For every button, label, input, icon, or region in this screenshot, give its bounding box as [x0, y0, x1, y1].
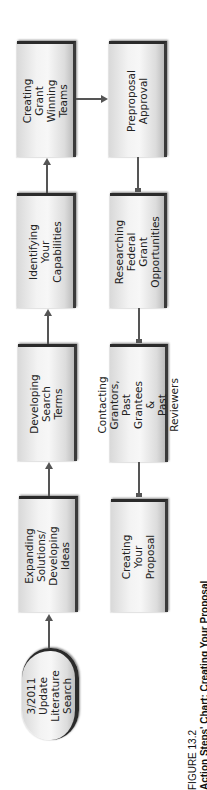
node-preproposal-approval: Preproposal Approval — [109, 41, 167, 157]
node-creating-your-proposal: Creating Your Proposal — [111, 499, 168, 612]
node-label: 3/2011 Update Literature Search — [25, 670, 73, 721]
node-label: Creating Your Proposal — [120, 535, 156, 580]
node-label: Preproposal Approval — [125, 70, 149, 132]
node-label: Expanding Solutions/ Developing Ideas — [23, 526, 71, 585]
node-label: Contacting Grantors, Past Grantees & Pas… — [96, 376, 180, 433]
figure-number: FIGURE 13.2 — [187, 581, 199, 790]
node-researching-federal-grant: Researching Federal Grant Opportunities — [110, 193, 167, 308]
node-label: Identifying Your Capabilities — [27, 221, 63, 282]
node-identifying-your-capabilities: Identifying Your Capabilities — [17, 193, 76, 308]
node-literature-search-start: 3/2011 Update Literature Search — [22, 648, 79, 740]
node-developing-search-terms: Developing Search Terms — [18, 344, 77, 461]
node-expanding-solutions: Expanding Solutions/ Developing Ideas — [19, 496, 78, 612]
node-label: Developing Search Terms — [28, 374, 64, 433]
node-contacting-grantors: Contacting Grantors, Past Grantees & Pas… — [110, 344, 168, 462]
figure-title: Action Steps' Chart: Creating Your Propo… — [199, 581, 207, 790]
node-creating-grant-winning-teams: Creating Grant Winning Teams — [17, 41, 76, 157]
node-label: Researching Federal Grant Opportunities — [113, 216, 161, 288]
node-label: Creating Grant Winning Teams — [21, 78, 69, 123]
figure-caption: FIGURE 13.2 Action Steps' Chart: Creatin… — [187, 581, 207, 790]
